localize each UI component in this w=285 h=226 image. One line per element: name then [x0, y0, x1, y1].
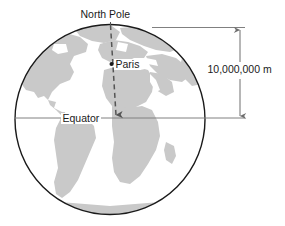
globe-distance-diagram: North Pole Paris Equator 10,000,000 m [0, 0, 285, 226]
diagram-canvas [0, 0, 285, 226]
distance-measurement-label: 10,000,000 m [206, 64, 273, 75]
equator-label: Equator [61, 113, 101, 124]
north-pole-label: North Pole [79, 9, 132, 20]
paris-label: Paris [114, 59, 141, 70]
